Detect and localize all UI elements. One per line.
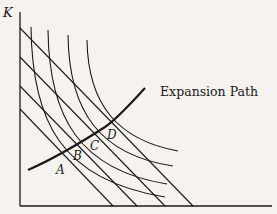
y-axis-label: K	[2, 5, 14, 20]
expansion-path-curve	[28, 88, 145, 170]
expansion-path-label: Expansion Path	[160, 84, 258, 99]
expansion-path-diagram: K Expansion Path A B C D	[0, 0, 277, 214]
point-label-b: B	[72, 149, 82, 163]
point-label-c: C	[90, 139, 99, 153]
isoquant-1	[31, 27, 165, 197]
point-label-a: A	[55, 163, 65, 177]
point-label-d: D	[106, 128, 117, 142]
isocost-line-2	[20, 86, 137, 206]
isocost-line-1	[20, 109, 113, 206]
isoquants	[31, 27, 178, 197]
